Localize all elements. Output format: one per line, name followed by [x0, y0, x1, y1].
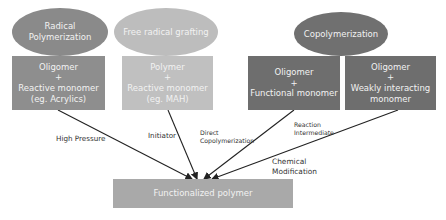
edge-label-line: Reaction [294, 121, 334, 129]
edge-label-high-pressure: High Pressure [56, 134, 106, 143]
target-label: Functionalized polymer [154, 188, 253, 199]
ellipse-label-line: Polymerization [29, 32, 92, 43]
edge-label-chemical-modification: Chemical Modification [272, 157, 317, 176]
edge-label-line: Modification [272, 167, 317, 177]
box-label-line: (eg. MAH) [146, 94, 188, 105]
box-label-line: monomer [370, 94, 411, 105]
box-oligomer-functional-monomer: Oligomer + Functional monomer [248, 56, 340, 110]
box-label-line: Oligomer [274, 67, 313, 78]
box-polymer-reactive-monomer: Polymer + Reactive monomer (eg. MAH) [122, 56, 213, 110]
edge-label-line: Chemical [272, 157, 317, 167]
edge-label-line: Initiator [148, 131, 176, 140]
edge-label-line: Copolymerization [200, 137, 254, 145]
box-label-line: Weakly interacting [351, 83, 431, 94]
box-label-line: + [164, 72, 171, 83]
box-functionalized-polymer: Functionalized polymer [113, 179, 293, 208]
ellipse-radical-polymerization: Radical Polymerization [12, 8, 108, 56]
box-oligomer-weakly-interacting-monomer: Oligomer + Weakly interacting monomer [345, 56, 436, 110]
box-label-line: + [387, 72, 394, 83]
box-label-line: Oligomer [371, 62, 410, 73]
box-label-line: Polymer [150, 62, 184, 73]
box-label-line: Reactive monomer [18, 83, 98, 94]
edge-label-direct-copolymerization: Direct Copolymerization [200, 129, 254, 145]
ellipse-label-line: Copolymerization [304, 29, 378, 40]
box-label-line: + [55, 72, 62, 83]
edge-label-line: High Pressure [56, 134, 106, 143]
edge-label-line: Intermediate [294, 129, 334, 137]
edge-label-line: Direct [200, 129, 254, 137]
ellipse-label-line: Radical [45, 21, 76, 32]
box-label-line: Oligomer [39, 62, 78, 73]
ellipse-free-radical-grafting: Free radical grafting [114, 8, 218, 56]
ellipse-label-line: Free radical grafting [123, 27, 209, 38]
edge-label-initiator: Initiator [148, 131, 176, 140]
box-label-line: Reactive monomer [127, 83, 207, 94]
box-label-line: (eg. Acrylics) [31, 94, 86, 105]
ellipse-copolymerization: Copolymerization [294, 12, 388, 56]
box-oligomer-reactive-monomer: Oligomer + Reactive monomer (eg. Acrylic… [12, 56, 105, 110]
box-label-line: + [290, 78, 297, 89]
box-label-line: Functional monomer [250, 88, 338, 99]
edge-label-reaction-intermediate: Reaction Intermediate [294, 121, 334, 137]
